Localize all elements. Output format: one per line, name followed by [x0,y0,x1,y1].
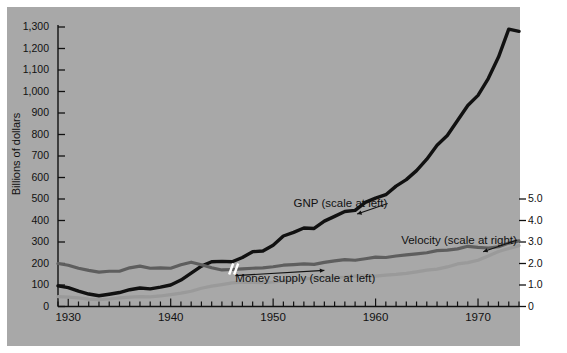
y-tick-label: 700 [31,149,49,161]
y-tick-label: 400 [31,214,49,226]
y-right-tick-label: 5.0 [528,192,543,204]
x-tick-label: 1970 [448,311,508,323]
x-tick-label: 1930 [38,311,98,323]
y-tick-label: 500 [31,192,49,204]
chart-plot-area [0,0,567,353]
series-annotation: Money supply (scale at left) [235,272,375,284]
series-annotation: GNP (scale at left) [294,197,388,209]
annotation-arrowhead [357,211,362,215]
x-tick-label: 1960 [346,311,406,323]
y-tick-label: 100 [31,278,49,290]
y-tick-label: 1,200 [23,42,49,54]
y-right-tick-label: 4.0 [528,214,543,226]
x-tick-label: 1940 [141,311,201,323]
y-right-tick-label: 3.0 [528,235,543,247]
x-tick-label: 1950 [243,311,303,323]
y-tick-label: 900 [31,106,49,118]
y-axis-title: Billions of dollars [10,94,22,214]
chart-figure: 01002003004005006007008009001,0001,1001,… [0,0,567,353]
y-right-tick-label: 0 [528,300,534,312]
y-tick-label: 300 [31,235,49,247]
series-line [58,29,519,296]
y-tick-label: 800 [31,128,49,140]
y-right-tick-label: 2.0 [528,257,543,269]
y-tick-label: 1,100 [23,63,49,75]
y-tick-label: 600 [31,171,49,183]
y-tick-label: 1,300 [23,20,49,32]
y-right-tick-label: 1.0 [528,278,543,290]
y-tick-label: 200 [31,257,49,269]
series-annotation: Velocity (scale at right) [401,234,517,246]
y-tick-label: 1,000 [23,85,49,97]
